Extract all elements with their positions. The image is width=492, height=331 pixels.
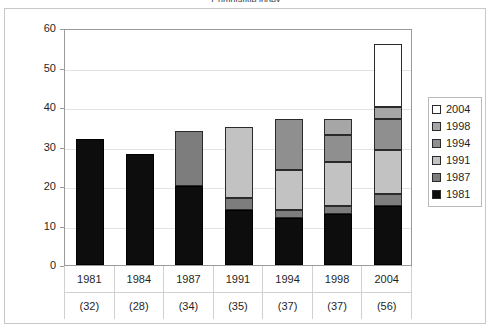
legend-item[interactable]: 1998	[432, 118, 478, 135]
legend-swatch-icon	[432, 122, 441, 131]
legend-swatch-icon	[432, 139, 441, 148]
category-year-cell: 1984	[114, 266, 164, 293]
bar-segment[interactable]	[175, 131, 203, 186]
chart-legend: 200419981994199119871981	[428, 97, 482, 207]
category-count-cell: (37)	[263, 293, 313, 320]
legend-swatch-icon	[432, 173, 441, 182]
legend-item[interactable]: 1994	[432, 135, 478, 152]
y-axis-tick-label: 20	[28, 181, 56, 192]
legend-item[interactable]: 2004	[432, 101, 478, 118]
bar-column[interactable]	[225, 28, 253, 265]
bar-segment[interactable]	[374, 206, 402, 265]
bar-segment[interactable]	[275, 119, 303, 170]
y-axis-tick-label: 0	[28, 260, 56, 271]
plot-area	[64, 29, 412, 266]
category-axis-table: 1981198419871991199419982004 (32)(28)(34…	[64, 266, 412, 319]
legend-swatch-icon	[432, 190, 441, 199]
legend-label: 1991	[446, 155, 470, 166]
legend-item[interactable]: 1991	[432, 152, 478, 169]
category-count-cell: (28)	[114, 293, 164, 320]
bar-segment[interactable]	[324, 214, 352, 265]
legend-item[interactable]: 1987	[432, 169, 478, 186]
legend-swatch-icon	[432, 105, 441, 114]
bar-segment[interactable]	[324, 206, 352, 214]
category-year-cell: 1994	[263, 266, 313, 293]
bar-segment[interactable]	[126, 154, 154, 265]
legend-label: 1998	[446, 121, 470, 132]
legend-label: 1981	[446, 189, 470, 200]
bar-segment[interactable]	[374, 107, 402, 119]
bar-segment[interactable]	[324, 135, 352, 163]
bar-column[interactable]	[76, 28, 104, 265]
bar-column[interactable]	[126, 28, 154, 265]
category-year-cell: 1998	[312, 266, 362, 293]
y-axis-tick-label: 30	[28, 142, 56, 153]
category-count-cell: (32)	[65, 293, 115, 320]
category-counts-row: (32)(28)(34)(35)(37)(37)(56)	[65, 293, 412, 320]
category-year-cell: 1991	[213, 266, 263, 293]
chart-page: Cumulative index 0102030405060 198119841…	[0, 0, 492, 331]
bar-segment[interactable]	[225, 127, 253, 198]
bar-column[interactable]	[374, 28, 402, 265]
category-count-cell: (56)	[362, 293, 412, 320]
chart-title: Cumulative index	[0, 0, 492, 2]
legend-swatch-icon	[432, 156, 441, 165]
y-axis-tick-label: 40	[28, 102, 56, 113]
legend-label: 2004	[446, 104, 470, 115]
bar-segment[interactable]	[225, 210, 253, 265]
y-axis-tick-label: 10	[28, 221, 56, 232]
bar-series-group	[65, 30, 411, 265]
legend-label: 1994	[446, 138, 470, 149]
category-count-cell: (35)	[213, 293, 263, 320]
category-year-cell: 1987	[164, 266, 214, 293]
category-years-row: 1981198419871991199419982004	[65, 266, 412, 293]
y-axis-tick-label: 60	[28, 23, 56, 34]
category-count-cell: (37)	[312, 293, 362, 320]
bar-segment[interactable]	[374, 44, 402, 107]
bar-segment[interactable]	[374, 194, 402, 206]
bar-segment[interactable]	[275, 170, 303, 210]
bar-column[interactable]	[175, 28, 203, 265]
category-count-cell: (34)	[164, 293, 214, 320]
bar-segment[interactable]	[175, 186, 203, 265]
bar-segment[interactable]	[374, 150, 402, 193]
legend-item[interactable]: 1981	[432, 186, 478, 203]
category-year-cell: 2004	[362, 266, 412, 293]
legend-label: 1987	[446, 172, 470, 183]
bar-segment[interactable]	[76, 139, 104, 265]
bar-segment[interactable]	[225, 198, 253, 210]
bar-column[interactable]	[324, 28, 352, 265]
bar-segment[interactable]	[275, 210, 303, 218]
y-axis-tick-label: 50	[28, 63, 56, 74]
bar-segment[interactable]	[374, 119, 402, 151]
bar-column[interactable]	[275, 28, 303, 265]
bar-segment[interactable]	[324, 119, 352, 135]
category-year-cell: 1981	[65, 266, 115, 293]
bar-segment[interactable]	[324, 162, 352, 205]
bar-segment[interactable]	[275, 218, 303, 265]
